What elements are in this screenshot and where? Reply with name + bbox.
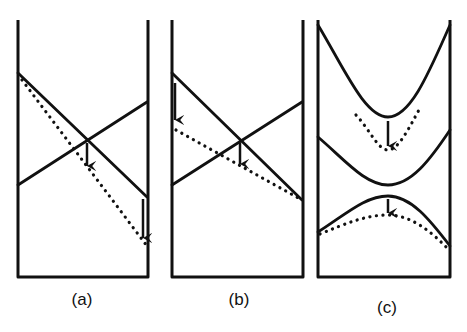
panel-c-label: (c) bbox=[377, 298, 397, 317]
panel-c-lower-level bbox=[318, 196, 450, 246]
panel-b-frame bbox=[172, 20, 303, 277]
figure-canvas: (a) (b) (c) bbox=[0, 0, 467, 332]
panel-b-ascending-level bbox=[172, 102, 302, 185]
panel-a-label: (a) bbox=[72, 290, 93, 309]
panel-a-frame bbox=[18, 20, 148, 277]
panel-c-upper-level bbox=[318, 25, 450, 117]
panel-b-label: (b) bbox=[229, 290, 250, 309]
panel-a-descending-level bbox=[18, 73, 147, 197]
panel-c-middle-level bbox=[318, 130, 450, 185]
panel-b: (b) bbox=[172, 20, 303, 309]
panel-a-ascending-level bbox=[18, 102, 147, 185]
panel-b-descending-level bbox=[172, 73, 302, 200]
panel-a-shifted-level-dotted bbox=[22, 80, 147, 246]
panel-c: (c) bbox=[318, 20, 450, 317]
panel-a: (a) bbox=[18, 20, 148, 309]
panel-b-shifted-level-dotted bbox=[176, 130, 302, 200]
